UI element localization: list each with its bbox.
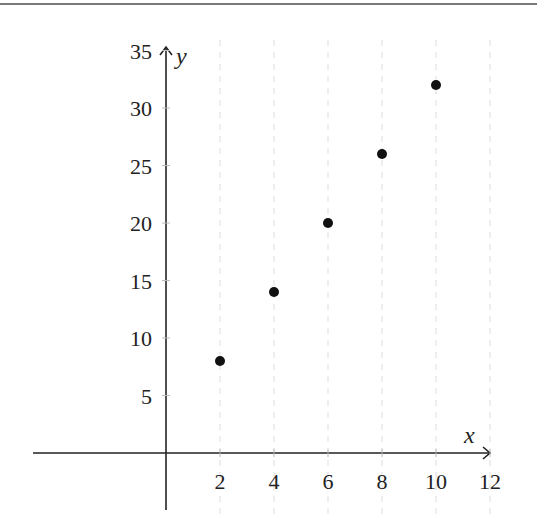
x-tick-label: 6 [323,469,334,494]
data-point [431,80,441,90]
data-point [269,287,279,297]
tick-labels: 246810125101520253035 [130,39,501,495]
y-tick-label: 20 [130,211,152,236]
x-tick-label: 2 [215,469,226,494]
axes: x y [33,43,490,510]
scatter-chart: x y 246810125101520253035 [0,0,537,532]
x-tick-label: 4 [269,469,280,494]
y-axis-label: y [174,43,187,69]
y-tick-label: 30 [130,96,152,121]
y-tick-label: 15 [130,269,152,294]
y-tick-label: 5 [141,384,152,409]
y-tick-label: 10 [130,326,152,351]
y-tick-label: 35 [130,39,152,64]
y-tick-label: 25 [130,154,152,179]
data-point [323,218,333,228]
x-tick-label: 8 [377,469,388,494]
grid-lines [220,40,490,520]
data-points [215,80,441,366]
x-tick-label: 12 [479,469,501,494]
data-point [215,356,225,366]
x-tick-label: 10 [425,469,447,494]
x-axis-label: x [463,422,475,448]
data-point [377,149,387,159]
